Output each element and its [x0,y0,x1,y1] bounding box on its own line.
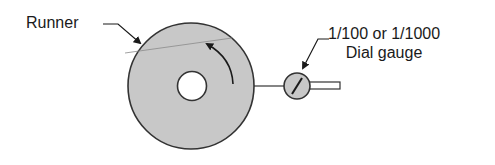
dial-gauge-label: 1/100 or 1/1000 Dial gauge [328,24,440,62]
runner-disc [128,23,254,149]
diagram: Runner 1/100 or 1/1000 Dial gauge [0,0,495,165]
dial-gauge-label-line2: Dial gauge [328,43,440,62]
gauge-stem [309,82,340,89]
runner-leader-line [103,24,140,43]
gauge-leader-line [303,39,329,68]
dial-gauge [284,73,340,99]
dial-gauge-label-line1: 1/100 or 1/1000 [328,24,440,43]
runner-label: Runner [26,13,78,32]
